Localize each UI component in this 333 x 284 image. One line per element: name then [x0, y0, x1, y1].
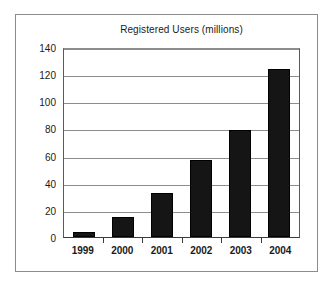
plot-area	[63, 48, 300, 238]
chart-figure: Registered Users (millions) 140 120 100 …	[0, 0, 333, 284]
xtick-label-1999: 1999	[72, 245, 94, 256]
gridline	[64, 130, 299, 131]
xtick-label-2003: 2003	[230, 245, 252, 256]
xtick-label-2000: 2000	[111, 245, 133, 256]
bar-1999	[73, 232, 95, 237]
xtick-mark	[261, 238, 262, 243]
gridline	[64, 103, 299, 104]
gridline	[64, 49, 299, 50]
ytick-label-80: 80	[45, 124, 56, 135]
gridline	[64, 76, 299, 77]
xtick-mark	[221, 238, 222, 243]
ytick-label-140: 140	[39, 43, 56, 54]
bar-2001	[151, 193, 173, 237]
bar-2000	[112, 217, 134, 237]
ytick-label-40: 40	[45, 178, 56, 189]
bar-2002	[190, 160, 212, 237]
ytick-label-100: 100	[39, 97, 56, 108]
ytick-label-60: 60	[45, 151, 56, 162]
gridline	[64, 212, 299, 213]
bar-2003	[229, 130, 251, 237]
xtick-label-2002: 2002	[190, 245, 212, 256]
ytick-label-20: 20	[45, 205, 56, 216]
xtick-mark	[103, 238, 104, 243]
chart-title: Registered Users (millions)	[63, 24, 300, 35]
xtick-label-2004: 2004	[269, 245, 291, 256]
gridline	[64, 158, 299, 159]
gridline	[64, 185, 299, 186]
xtick-label-2001: 2001	[151, 245, 173, 256]
ytick-label-0: 0	[50, 233, 56, 244]
xtick-mark	[142, 238, 143, 243]
ytick-label-120: 120	[39, 70, 56, 81]
xtick-mark	[182, 238, 183, 243]
bar-2004	[268, 69, 290, 237]
